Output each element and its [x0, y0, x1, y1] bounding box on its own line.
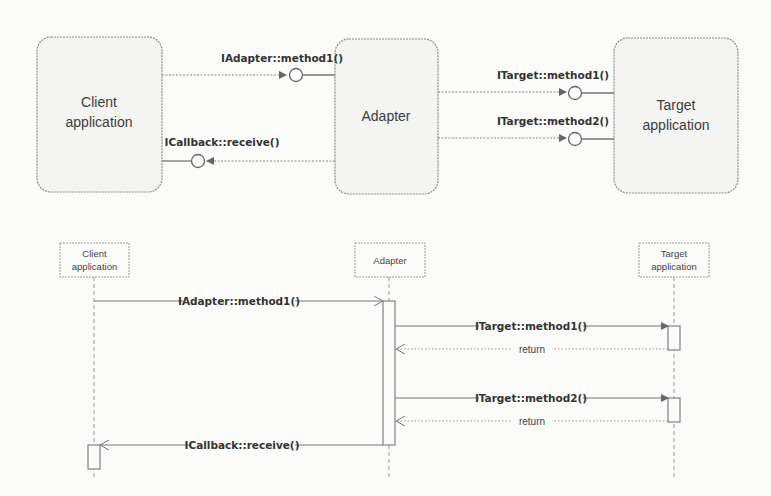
target-application-component[interactable]: Target application	[614, 38, 738, 193]
lifeline-target[interactable]: Target application	[639, 243, 709, 480]
client-activation-bar	[88, 445, 100, 469]
msg-icallback-receive-label: ICallback::receive()	[185, 439, 300, 451]
message-iadapter-method1: IAdapter::method1()	[94, 294, 383, 308]
msg-return-2-label: return	[519, 416, 545, 427]
message-return-1: return	[396, 343, 668, 356]
client-label-line2: application	[66, 114, 133, 130]
target-activation-bar-2	[668, 398, 680, 422]
target-activation-bar-1	[668, 326, 680, 350]
adapter-activation-bar	[383, 301, 395, 445]
client-application-component[interactable]: Client application	[37, 37, 162, 192]
lollipop-icon	[192, 155, 205, 168]
lollipop-icon	[569, 87, 582, 100]
icallback-receive-label: ICallback::receive()	[165, 136, 280, 148]
itarget-method1-label: ITarget::method1()	[497, 69, 609, 81]
lifeline-target-label-line1: Target	[661, 248, 688, 259]
target-label-line2: application	[643, 117, 710, 133]
interface-iadapter-method1: IAdapter::method1()	[162, 52, 343, 82]
adapter-component[interactable]: Adapter	[335, 39, 438, 194]
interface-itarget-method1: ITarget::method1()	[438, 69, 614, 100]
lifeline-client-label-line1: Client	[82, 248, 107, 259]
component-diagram: Client application Adapter Target applic…	[37, 37, 738, 194]
sequence-diagram: Client application Adapter Target applic…	[60, 243, 709, 480]
adapter-pattern-diagram: Client application Adapter Target applic…	[0, 0, 771, 496]
msg-iadapter-method1-label: IAdapter::method1()	[178, 295, 300, 307]
iadapter-method1-label: IAdapter::method1()	[221, 52, 343, 64]
message-itarget-method1: ITarget::method1()	[395, 319, 668, 333]
message-icallback-receive: ICallback::receive()	[100, 438, 383, 452]
interface-itarget-method2: ITarget::method2()	[438, 115, 614, 146]
lifeline-target-label-line2: application	[651, 261, 696, 272]
message-return-2: return	[396, 415, 668, 428]
msg-itarget-method2-label: ITarget::method2()	[475, 392, 587, 404]
itarget-method2-label: ITarget::method2()	[497, 115, 609, 127]
msg-itarget-method1-label: ITarget::method1()	[475, 320, 587, 332]
lollipop-icon	[290, 69, 303, 82]
lifeline-adapter-label: Adapter	[373, 255, 406, 266]
msg-return-1-label: return	[519, 344, 545, 355]
message-itarget-method2: ITarget::method2()	[395, 391, 668, 405]
lollipop-icon	[569, 133, 582, 146]
target-label-line1: Target	[657, 97, 696, 113]
client-label-line1: Client	[81, 94, 117, 110]
lifeline-client-label-line2: application	[72, 261, 117, 272]
interface-icallback-receive: ICallback::receive()	[162, 136, 335, 168]
adapter-label: Adapter	[361, 108, 410, 124]
